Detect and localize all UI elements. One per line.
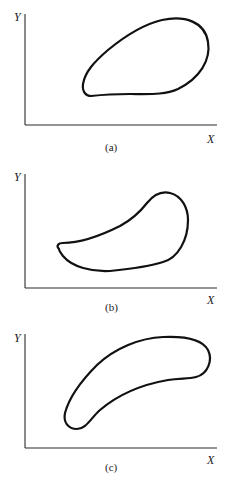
panel-a: Y X (a) — [14, 10, 217, 154]
contour-banana — [65, 337, 210, 429]
y-axis-label: Y — [14, 170, 22, 184]
panel-caption: (c) — [105, 461, 118, 474]
panel-caption: (b) — [105, 301, 118, 314]
x-axis-label: X — [206, 132, 215, 146]
contour-teardrop — [83, 18, 209, 96]
figure-canvas: Y X (a) Y X (b) Y X (c) — [0, 0, 230, 488]
contour-comma — [58, 192, 188, 271]
y-axis-label: Y — [14, 331, 22, 345]
y-axis-label: Y — [14, 10, 22, 24]
panel-caption: (a) — [105, 141, 118, 154]
x-axis-label: X — [206, 293, 215, 307]
panel-b: Y X (b) — [14, 170, 217, 314]
x-axis-label: X — [206, 453, 215, 467]
panel-c: Y X (c) — [14, 331, 217, 474]
